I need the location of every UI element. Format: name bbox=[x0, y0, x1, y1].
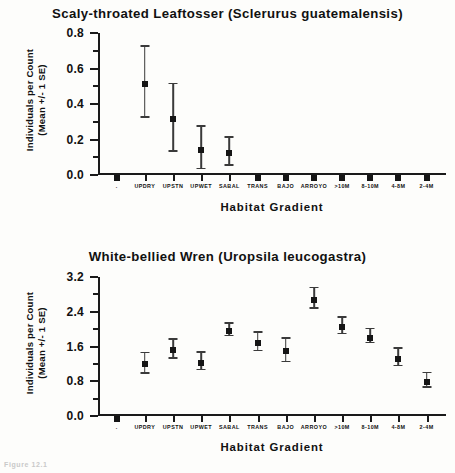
y-axis-label: Individuals per Count (Mean +/- 1 SE) bbox=[24, 30, 48, 170]
x-tick-label: SABAL bbox=[219, 424, 240, 430]
x-tick bbox=[398, 416, 400, 422]
y-tick-major bbox=[90, 68, 98, 70]
y-tick-label: 1.6 bbox=[67, 340, 85, 354]
y-tick-major bbox=[90, 415, 98, 417]
x-tick-label: 8-10M bbox=[362, 183, 380, 189]
data-point[interactable] bbox=[198, 360, 204, 366]
x-tick-label: TRANS bbox=[247, 183, 268, 189]
data-point[interactable] bbox=[114, 416, 120, 422]
error-bar-cap-upper bbox=[169, 338, 178, 340]
y-tick-major bbox=[90, 276, 98, 278]
error-bar-cap-upper bbox=[197, 351, 206, 353]
y-tick-minor bbox=[93, 121, 98, 123]
x-axis-label: Habitat Gradient bbox=[98, 441, 446, 453]
x-tick-label: SABAL bbox=[219, 183, 240, 189]
data-point[interactable] bbox=[226, 150, 232, 156]
y-axis-label: Individuals per Count (Mean +/- 1 SE) bbox=[24, 273, 48, 413]
data-point[interactable] bbox=[170, 347, 176, 353]
plot-area: 0.00.81.62.43.2 bbox=[98, 277, 446, 416]
x-tick-label: 2-4M bbox=[420, 183, 434, 189]
x-tick-label: UPWET bbox=[190, 183, 212, 189]
x-tick bbox=[427, 416, 429, 422]
data-point[interactable] bbox=[311, 297, 317, 303]
y-tick-major bbox=[90, 380, 98, 382]
error-bar-cap-upper bbox=[225, 322, 234, 324]
x-tick bbox=[201, 416, 203, 422]
x-tick-label: UPWET bbox=[190, 424, 212, 430]
y-tick-major bbox=[90, 139, 98, 141]
data-point[interactable] bbox=[367, 175, 373, 181]
error-bar-cap-upper bbox=[394, 347, 403, 349]
data-point[interactable] bbox=[367, 335, 373, 341]
error-bar-cap-upper bbox=[140, 45, 149, 47]
x-tick-label: 4-8M bbox=[391, 183, 405, 189]
chart-title: Scaly-throated Leaftosser (Sclerurus gua… bbox=[0, 6, 455, 21]
data-point[interactable] bbox=[142, 81, 148, 87]
x-tick bbox=[370, 416, 372, 422]
x-tick-label: >10M bbox=[334, 424, 349, 430]
x-tick-label: BAJO bbox=[277, 424, 294, 430]
error-bar-cap-lower bbox=[169, 150, 178, 152]
x-tick-label: 2-4M bbox=[420, 424, 434, 430]
error-bar-cap-lower bbox=[140, 372, 149, 374]
y-tick-minor bbox=[93, 85, 98, 87]
error-bar-cap-upper bbox=[309, 287, 318, 289]
x-tick-label: UPSTN bbox=[163, 424, 184, 430]
x-tick bbox=[342, 416, 344, 422]
error-bar-cap-upper bbox=[140, 352, 149, 354]
x-tick-label: BAJO bbox=[277, 183, 294, 189]
data-point[interactable] bbox=[424, 175, 430, 181]
y-axis-line bbox=[98, 33, 100, 175]
data-point[interactable] bbox=[198, 147, 204, 153]
error-bar-cap-upper bbox=[253, 331, 262, 333]
plot-area: 0.00.20.40.60.8 bbox=[98, 33, 446, 175]
data-point[interactable] bbox=[226, 328, 232, 334]
y-tick-major bbox=[90, 346, 98, 348]
x-tick bbox=[229, 416, 231, 422]
error-bar-cap-lower bbox=[197, 369, 206, 371]
x-tick bbox=[173, 416, 175, 422]
error-bar-cap-lower bbox=[253, 350, 262, 352]
data-point[interactable] bbox=[311, 175, 317, 181]
error-bar-cap-upper bbox=[225, 136, 234, 138]
x-tick-label: UPDRY bbox=[134, 424, 155, 430]
error-bar-cap-lower bbox=[394, 365, 403, 367]
error-bar-cap-lower bbox=[309, 307, 318, 309]
y-axis-label-line1: Individuals per Count bbox=[24, 30, 36, 170]
y-axis-label-line2: (Mean +/- 1 SE) bbox=[36, 273, 48, 413]
error-bar-cap-lower bbox=[225, 164, 234, 166]
x-tick-label: UPDRY bbox=[134, 183, 155, 189]
error-bar-cap-upper bbox=[422, 372, 431, 374]
y-axis-label-line2: (Mean +/- 1 SE) bbox=[36, 30, 48, 170]
data-point[interactable] bbox=[395, 356, 401, 362]
y-tick-label: 0.8 bbox=[67, 26, 85, 40]
x-axis-line bbox=[98, 414, 446, 416]
x-tick-label: UPSTN bbox=[163, 183, 184, 189]
y-tick-major bbox=[90, 32, 98, 34]
error-bar-cap-upper bbox=[366, 328, 375, 330]
y-tick-label: 0.6 bbox=[67, 62, 85, 76]
y-tick-label: 0.4 bbox=[67, 97, 85, 111]
error-bar-cap-upper bbox=[169, 83, 178, 85]
y-tick-minor bbox=[93, 398, 98, 400]
data-point[interactable] bbox=[255, 340, 261, 346]
x-tick bbox=[286, 416, 288, 422]
data-point[interactable] bbox=[114, 175, 120, 181]
data-point[interactable] bbox=[424, 379, 430, 385]
data-point[interactable] bbox=[142, 361, 148, 367]
data-point[interactable] bbox=[283, 348, 289, 354]
x-tick-label-row: .UPDRYUPSTNUPWETSABALTRANSBAJOARROYO>10M… bbox=[98, 424, 446, 436]
x-tick bbox=[314, 416, 316, 422]
figure-caption: Figure 12.1 bbox=[4, 461, 48, 468]
data-point[interactable] bbox=[255, 175, 261, 181]
x-tick-label-row: .UPDRYUPSTNUPWETSABALTRANSBAJOARROYO>10M… bbox=[98, 183, 446, 195]
data-point[interactable] bbox=[339, 175, 345, 181]
data-point[interactable] bbox=[339, 324, 345, 330]
data-point[interactable] bbox=[283, 175, 289, 181]
x-tick-label: >10M bbox=[334, 183, 349, 189]
x-tick-label: TRANS bbox=[247, 424, 268, 430]
data-point[interactable] bbox=[170, 116, 176, 122]
data-point[interactable] bbox=[395, 175, 401, 181]
y-tick-major bbox=[90, 103, 98, 105]
error-bar-cap-lower bbox=[169, 357, 178, 359]
